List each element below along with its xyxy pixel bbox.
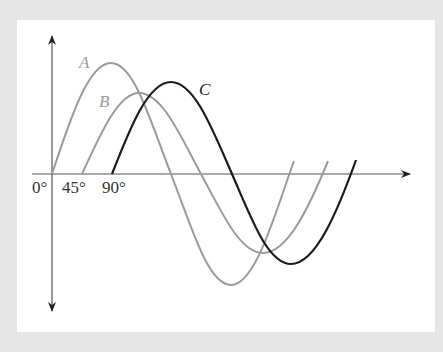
curve-c xyxy=(112,82,356,264)
tick-45-label: 45° xyxy=(62,178,86,197)
curve-a-label: A xyxy=(78,53,90,72)
tick-0-label: 0° xyxy=(32,178,47,197)
curve-b-label: B xyxy=(99,92,110,111)
curve-c-label: C xyxy=(199,80,211,99)
tick-90-label: 90° xyxy=(102,178,126,197)
sine-wave-diagram: A B C 0° 45° 90° xyxy=(0,0,443,352)
